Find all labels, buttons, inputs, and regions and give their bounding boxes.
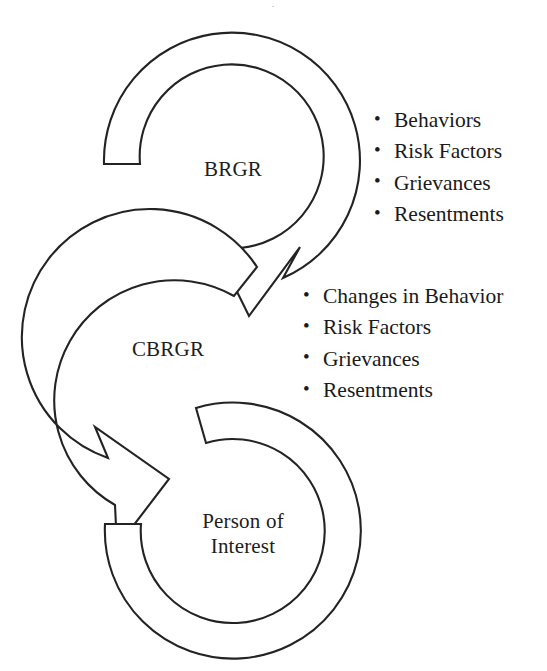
- list-item: Grievances: [302, 344, 503, 375]
- cbrgr-annotation-list: Changes in Behavior Risk Factors Grievan…: [302, 281, 503, 407]
- list-item: Resentments: [302, 375, 503, 406]
- node-label-person-of-interest: Person of Interest: [168, 509, 318, 559]
- node-label-cbrgr: CBRGR: [98, 337, 238, 362]
- diagram-canvas: . BRGR CBRGR Person of Interest Behavior…: [0, 0, 547, 671]
- list-item: Risk Factors: [373, 136, 504, 167]
- list-item: Risk Factors: [302, 312, 503, 343]
- list-item: Changes in Behavior: [302, 281, 503, 312]
- cbrgr-ring-arrow-shape: [22, 209, 257, 547]
- brgr-annotation-list: Behaviors Risk Factors Grievances Resent…: [373, 105, 504, 231]
- list-item: Resentments: [373, 199, 504, 230]
- list-item: Behaviors: [373, 105, 504, 136]
- list-item: Grievances: [373, 168, 504, 199]
- node-label-brgr: BRGR: [168, 157, 298, 182]
